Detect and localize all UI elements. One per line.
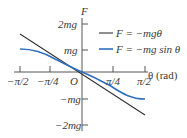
x-tick-label-neg-pi-4: −π/4 — [37, 75, 59, 87]
y-axis-label: F — [80, 5, 88, 17]
y-tick-label-2mg: 2mg — [58, 18, 77, 30]
x-tick-label-neg-pi-2: −π/2 — [7, 75, 29, 87]
x-axis-label: θ (rad) — [148, 69, 178, 82]
y-tick-label-neg-mg: −mg — [60, 93, 81, 105]
origin-label: O — [70, 75, 78, 87]
legend-linear-label: F = −mgθ — [115, 27, 163, 39]
y-tick-label-mg: mg — [64, 44, 78, 56]
x-tick-label-pi-4: π/4 — [106, 75, 121, 87]
y-tick-label-neg-2mg: −2mg — [55, 119, 82, 131]
chart-canvas: F 2mg mg −mg −2mg −π/2 −π/4 O π/4 π/2 θ … — [0, 0, 187, 138]
legend-sin-label: F = −mg sin θ — [115, 43, 181, 55]
